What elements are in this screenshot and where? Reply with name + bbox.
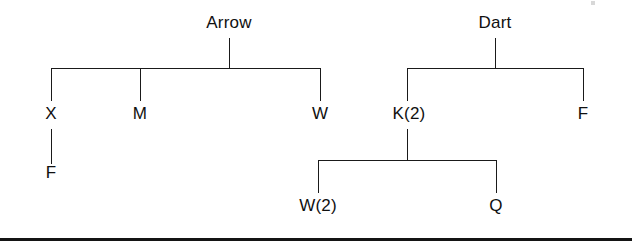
scan-speck [591, 1, 595, 5]
k2-sibship-bar [318, 160, 496, 161]
pedigree-diagram: Arrow X M W F Dart K(2) F W(2) Q [0, 0, 632, 250]
arrow-sibship-bar [51, 68, 320, 69]
node-label-f-under-x: F [46, 164, 57, 181]
k2-drop-to-q [496, 160, 497, 193]
node-label-w2: W(2) [299, 197, 337, 214]
k2-stem [407, 129, 408, 160]
bottom-rule [0, 238, 632, 241]
root-label-arrow: Arrow [206, 14, 251, 31]
dart-sibship-bar [407, 68, 583, 69]
node-label-q: Q [489, 197, 502, 214]
k2-drop-to-w2 [318, 160, 319, 193]
root-label-dart: Dart [479, 14, 512, 31]
x-drop-to-f [51, 129, 52, 164]
node-label-w: W [312, 105, 328, 122]
dart-drop-to-k2 [407, 68, 408, 101]
node-label-f-right: F [578, 105, 589, 122]
dart-root-stem [495, 38, 496, 68]
node-label-m: M [133, 105, 147, 122]
dart-drop-to-f [583, 68, 584, 101]
arrow-drop-to-m [140, 68, 141, 101]
arrow-root-stem [229, 38, 230, 68]
node-label-k2: K(2) [393, 105, 426, 122]
arrow-drop-to-x [51, 68, 52, 101]
arrow-drop-to-w [320, 68, 321, 101]
node-label-x: X [45, 105, 57, 122]
